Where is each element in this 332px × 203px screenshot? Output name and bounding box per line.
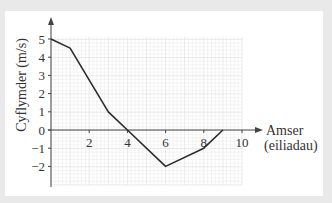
- x-tick-label: 10: [236, 135, 249, 150]
- x-tick-label: 6: [162, 135, 169, 150]
- y-tick-label: −1: [31, 141, 45, 156]
- x-tick-label: 4: [124, 135, 131, 150]
- y-axis-title: Cyflymder (m/s): [14, 38, 30, 132]
- data-line: [51, 39, 223, 166]
- x-axis-title-line1: Amser: [266, 123, 304, 138]
- y-tick-label: 3: [39, 68, 46, 83]
- x-axis-title-line2: (eiliadau): [264, 138, 318, 154]
- x-tick-label: 2: [86, 135, 93, 150]
- velocity-time-chart: 543210−1−2246810 Cyflymder (m/s) Amser (…: [0, 0, 332, 203]
- grid: [51, 37, 242, 185]
- y-tick-label: 2: [39, 86, 46, 101]
- y-tick-label: 4: [39, 50, 46, 65]
- y-tick-label: 5: [39, 32, 46, 47]
- y-tick-label: 0: [39, 123, 46, 138]
- y-tick-label: −2: [31, 159, 45, 174]
- y-tick-label: 1: [39, 104, 46, 119]
